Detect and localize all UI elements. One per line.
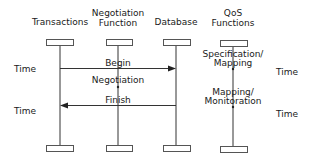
database-bottom-box [164,146,191,152]
transactions-bottom-box [47,146,74,152]
negotiation-activity-label: Negotiation [88,76,148,85]
negotiation-label-line1: Negotiation [88,8,148,18]
negotiation-dot-icon [117,86,119,88]
time-label-left-top: Time [14,64,36,74]
time-label-left-bottom: Time [14,106,36,116]
database-top-box [164,40,191,46]
spec-mapping-activity-label: Specification/ Mapping [198,50,268,68]
begin-arrowhead-icon [168,66,176,72]
mapping-monitoration-activity-label: Mapping/ Monitoration [198,88,268,106]
qos-label-line2: Functions [203,18,263,28]
spec-mapping-dot-icon [232,68,234,70]
mapping-monitoration-line2: Monitoration [198,97,268,106]
finish-arrowhead-icon [60,103,68,109]
time-label-right-bottom: Time [276,109,298,119]
negotiation-label-line2: Function [88,18,148,28]
transactions-label: Transactions [32,17,88,27]
time-label-right-top: Time [276,67,298,77]
database-header: Database [146,17,206,27]
negotiation-bottom-box [107,146,133,152]
database-label: Database [155,17,198,27]
mapping-monitoration-dot-icon [232,106,234,108]
qos-label-line1: QoS [203,8,263,18]
sequence-diagram: Transactions Negotiation Function Databa… [0,0,314,164]
spec-mapping-line2: Mapping [198,59,268,68]
negotiation-header: Negotiation Function [88,8,148,28]
finish-label: Finish [98,96,138,105]
begin-label: Begin [98,59,138,68]
qos-header: QoS Functions [203,8,263,28]
negotiation-top-box [107,40,133,46]
qos-top-box [221,41,248,47]
qos-bottom-box [221,147,248,153]
transactions-top-box [47,40,74,46]
transactions-header: Transactions [30,17,90,27]
